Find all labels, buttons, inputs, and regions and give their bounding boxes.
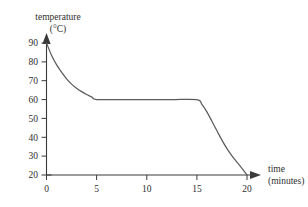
x-axis-title-line1: time	[268, 164, 285, 174]
y-tick-label-20: 20	[29, 170, 39, 180]
x-tick-label-15: 15	[192, 184, 202, 194]
x-axis-tick-labels: 0 5 10 15 20	[44, 184, 252, 194]
x-tick-label-10: 10	[142, 184, 152, 194]
y-tick-label-50: 50	[29, 114, 39, 124]
y-tick-label-40: 40	[29, 133, 39, 143]
cooling-curve-line	[47, 43, 248, 175]
y-axis-tick-labels: 20 30 40 50 60 70 80 90	[29, 38, 39, 180]
y-tick-label-80: 80	[29, 57, 39, 67]
x-tick-label-5: 5	[94, 184, 99, 194]
x-tick-label-0: 0	[44, 184, 49, 194]
y-axis-title-line1: temperature	[35, 12, 80, 22]
y-axis-arrow-icon	[42, 33, 50, 44]
y-tick-label-90: 90	[29, 38, 39, 48]
cooling-curve-chart: 20 30 40 50 60 70 80 90 0 5 10 15 20 tem…	[0, 0, 308, 207]
y-axis-title-line2: (°C)	[50, 24, 66, 35]
x-axis-arrow-icon	[250, 171, 261, 179]
y-tick-label-70: 70	[29, 76, 39, 86]
x-tick-label-20: 20	[242, 184, 252, 194]
chart-screenshot: 20 30 40 50 60 70 80 90 0 5 10 15 20 tem…	[0, 0, 308, 207]
y-axis-title: temperature (°C)	[35, 12, 80, 35]
x-axis-title: time (minutes)	[268, 164, 304, 187]
y-tick-label-60: 60	[29, 95, 39, 105]
y-tick-label-30: 30	[29, 151, 39, 161]
x-axis-title-line2: (minutes)	[268, 176, 304, 187]
